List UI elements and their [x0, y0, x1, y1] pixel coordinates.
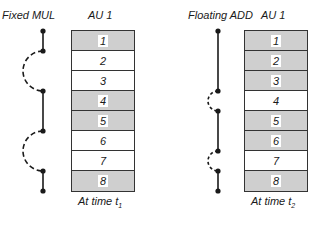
right-chain-node [215, 88, 220, 93]
row-number: 3 [271, 75, 281, 87]
au-row: 6 [245, 131, 307, 151]
caption-subscript: 2 [291, 202, 295, 209]
row-number: 7 [271, 155, 281, 167]
au-row: 1 [245, 31, 307, 51]
right-chain-node [215, 108, 220, 113]
au-row: 3 [245, 71, 307, 91]
right-chain-node [215, 28, 220, 33]
right-chain-node [215, 148, 220, 153]
row-number: 1 [271, 35, 281, 47]
row-number: 4 [271, 95, 281, 107]
au-row: 5 [245, 111, 307, 131]
right-au-table: 1 2 3 4 5 6 7 8 [244, 30, 308, 192]
row-number: 2 [271, 55, 281, 67]
au-row: 8 [245, 171, 307, 191]
au-row: 4 [245, 91, 307, 111]
right-chain-node [215, 188, 220, 193]
row-number: 5 [271, 115, 281, 127]
right-chain-dashed-arc [208, 91, 218, 111]
au-row: 7 [245, 151, 307, 171]
caption-text: At time t [251, 195, 291, 207]
au-row: 2 [245, 51, 307, 71]
right-chain-node [215, 168, 220, 173]
right-caption: At time t2 [251, 195, 295, 209]
row-number: 6 [271, 135, 281, 147]
row-number: 8 [271, 175, 281, 187]
right-chain-dashed-arc [208, 151, 218, 171]
